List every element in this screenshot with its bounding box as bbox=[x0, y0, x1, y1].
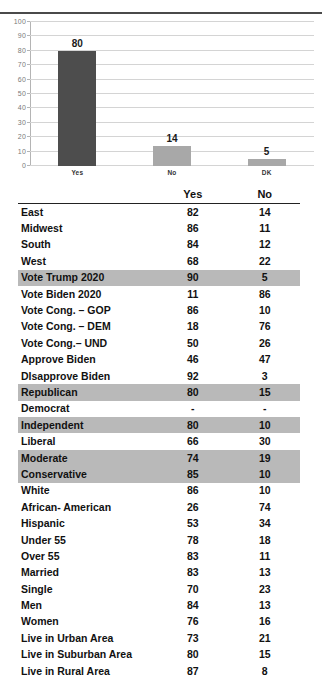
table-body: East8214Midwest8611South8412West6822Vote… bbox=[18, 204, 300, 679]
cell-no: 19 bbox=[229, 450, 300, 466]
table-row: Live in Rural Area878 bbox=[18, 663, 300, 679]
cell-yes: 87 bbox=[156, 663, 229, 679]
row-label: Moderate bbox=[18, 450, 156, 466]
crosstab-table: Yes No East8214Midwest8611South8412West6… bbox=[18, 186, 300, 679]
row-label: Conservative bbox=[18, 466, 156, 482]
chart-category-label: Yes bbox=[58, 169, 96, 176]
cell-yes: 80 bbox=[156, 384, 229, 400]
cell-yes: 74 bbox=[156, 450, 229, 466]
cell-no: 3 bbox=[229, 368, 300, 384]
crosstab-table-block: Yes No East8214Midwest8611South8412West6… bbox=[0, 186, 322, 655]
row-label: Live in Rural Area bbox=[18, 663, 156, 679]
row-label: South bbox=[18, 237, 156, 253]
column-header-no: No bbox=[229, 186, 300, 203]
chart-plot-area: 010203040506070809010080Yes14No5DK bbox=[30, 22, 314, 166]
bar-chart: 010203040506070809010080Yes14No5DK bbox=[0, 16, 322, 184]
chart-y-tick-mark bbox=[27, 93, 30, 94]
cell-yes: 85 bbox=[156, 466, 229, 482]
row-label: Vote Cong.– UND bbox=[18, 335, 156, 351]
table-header-row: Yes No bbox=[18, 186, 300, 203]
table-row: Live in Suburban Area8015 bbox=[18, 647, 300, 663]
table-row: Married8313 bbox=[18, 565, 300, 581]
cell-no: 74 bbox=[229, 499, 300, 515]
table-row: White8610 bbox=[18, 483, 300, 499]
row-label: African- American bbox=[18, 499, 156, 515]
chart-y-tick-label: 70 bbox=[18, 61, 26, 68]
cell-yes: 83 bbox=[156, 565, 229, 581]
chart-y-tick-label: 80 bbox=[18, 46, 26, 53]
chart-y-tick-label: 90 bbox=[18, 32, 26, 39]
cell-yes: 86 bbox=[156, 302, 229, 318]
header-divider-rule bbox=[0, 12, 322, 14]
cell-no: 47 bbox=[229, 352, 300, 368]
cell-no: 15 bbox=[229, 384, 300, 400]
cell-no: 22 bbox=[229, 253, 300, 269]
table-row: Vote Biden 20201186 bbox=[18, 286, 300, 302]
cell-no: 21 bbox=[229, 630, 300, 646]
cell-yes: 26 bbox=[156, 499, 229, 515]
cell-no: 18 bbox=[229, 532, 300, 548]
row-label: Live in Urban Area bbox=[18, 630, 156, 646]
row-label: Vote Trump 2020 bbox=[18, 270, 156, 286]
cell-yes: 70 bbox=[156, 581, 229, 597]
table-row: Moderate7419 bbox=[18, 450, 300, 466]
cell-yes: 68 bbox=[156, 253, 229, 269]
cell-no: 11 bbox=[229, 548, 300, 564]
cell-yes: 86 bbox=[156, 483, 229, 499]
chart-category-label: No bbox=[153, 169, 191, 176]
row-label: Vote Cong. – DEM bbox=[18, 319, 156, 335]
cell-yes: 90 bbox=[156, 270, 229, 286]
table-row: Vote Cong. – DEM1876 bbox=[18, 319, 300, 335]
table-row: Vote Cong.– UND5026 bbox=[18, 335, 300, 351]
cell-yes: 84 bbox=[156, 597, 229, 613]
cell-yes: 18 bbox=[156, 319, 229, 335]
cell-yes: 76 bbox=[156, 614, 229, 630]
chart-y-tick-mark bbox=[27, 50, 30, 51]
cell-yes: 80 bbox=[156, 647, 229, 663]
chart-bar-group: 14No bbox=[153, 22, 191, 166]
row-label: Vote Cong. – GOP bbox=[18, 302, 156, 318]
table-row: Republican8015 bbox=[18, 384, 300, 400]
chart-y-tick-mark bbox=[27, 35, 30, 36]
row-label: Over 55 bbox=[18, 548, 156, 564]
table-row: Conservative8510 bbox=[18, 466, 300, 482]
chart-bar-group: 5DK bbox=[248, 22, 286, 166]
table-row: African- American2674 bbox=[18, 499, 300, 515]
chart-y-tick-mark bbox=[27, 107, 30, 108]
row-label: Vote Biden 2020 bbox=[18, 286, 156, 302]
chart-y-tick-label: 20 bbox=[18, 133, 26, 140]
chart-bar-group: 80Yes bbox=[58, 22, 96, 166]
row-label: Liberal bbox=[18, 433, 156, 449]
chart-y-tick-label: 10 bbox=[18, 147, 26, 154]
cell-yes: 84 bbox=[156, 237, 229, 253]
chart-y-tick-label: 50 bbox=[18, 90, 26, 97]
cell-no: 10 bbox=[229, 417, 300, 433]
cell-yes: - bbox=[156, 401, 229, 417]
table-row: Vote Cong. – GOP8610 bbox=[18, 302, 300, 318]
cell-no: 34 bbox=[229, 515, 300, 531]
table-row: Under 557818 bbox=[18, 532, 300, 548]
chart-y-tick-mark bbox=[27, 122, 30, 123]
column-header-label bbox=[18, 186, 156, 203]
chart-y-tick-label: 30 bbox=[18, 118, 26, 125]
chart-bar bbox=[58, 51, 96, 166]
cell-no: 26 bbox=[229, 335, 300, 351]
cell-no: 5 bbox=[229, 270, 300, 286]
row-label: East bbox=[18, 204, 156, 220]
cell-no: 10 bbox=[229, 302, 300, 318]
cell-no: 23 bbox=[229, 581, 300, 597]
table-row: Hispanic5334 bbox=[18, 515, 300, 531]
cell-no: 11 bbox=[229, 220, 300, 236]
chart-bar bbox=[153, 146, 191, 166]
table-row: Vote Trump 2020905 bbox=[18, 270, 300, 286]
row-label: Approve Biden bbox=[18, 352, 156, 368]
chart-y-tick-mark bbox=[27, 165, 30, 166]
cell-no: 10 bbox=[229, 466, 300, 482]
cell-no: 8 bbox=[229, 663, 300, 679]
cell-no: 13 bbox=[229, 597, 300, 613]
cell-no: 13 bbox=[229, 565, 300, 581]
chart-y-tick-mark bbox=[27, 79, 30, 80]
cell-no: 76 bbox=[229, 319, 300, 335]
cell-yes: 46 bbox=[156, 352, 229, 368]
table-row: West6822 bbox=[18, 253, 300, 269]
